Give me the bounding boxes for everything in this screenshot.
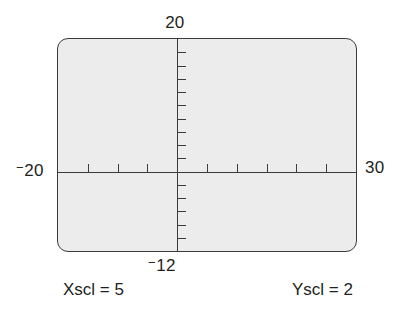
y-min-negative-sign: − xyxy=(148,255,156,270)
y-axis-tick xyxy=(177,52,186,53)
x-min-label: −20 xyxy=(16,158,44,180)
y-axis-tick xyxy=(177,92,186,93)
y-max-value: 20 xyxy=(165,13,184,32)
calculator-screen xyxy=(57,38,357,252)
y-axis-tick xyxy=(177,158,186,159)
y-axis-tick xyxy=(177,198,186,199)
y-axis-tick xyxy=(177,185,186,186)
calculator-window-figure: 20 −12 −20 30 Xscl = 5 Yscl = 2 xyxy=(0,0,404,317)
x-axis-tick xyxy=(118,164,119,173)
xscl-caption: Xscl = 5 xyxy=(63,280,124,300)
x-axis-tick xyxy=(147,164,148,173)
x-axis-tick xyxy=(207,164,208,173)
x-axis-tick xyxy=(237,164,238,173)
y-axis-tick xyxy=(177,105,186,106)
y-axis-tick xyxy=(177,79,186,80)
x-axis-tick xyxy=(267,164,268,173)
screen-plot-area xyxy=(58,39,356,251)
y-axis-tick xyxy=(177,66,186,67)
x-min-negative-sign: − xyxy=(16,160,24,175)
y-min-label: −12 xyxy=(148,253,176,275)
y-min-value: 12 xyxy=(156,256,175,275)
y-axis-tick xyxy=(177,145,186,146)
y-axis-tick xyxy=(177,119,186,120)
y-axis-tick xyxy=(177,211,186,212)
y-axis-tick xyxy=(177,132,186,133)
yscl-caption: Yscl = 2 xyxy=(292,280,353,300)
y-axis-tick xyxy=(177,225,186,226)
x-min-value: 20 xyxy=(24,161,43,180)
x-axis-tick xyxy=(326,164,327,173)
x-axis-tick xyxy=(296,164,297,173)
y-axis-tick xyxy=(177,238,186,239)
x-max-label: 30 xyxy=(365,158,384,177)
x-axis-tick xyxy=(88,164,89,173)
